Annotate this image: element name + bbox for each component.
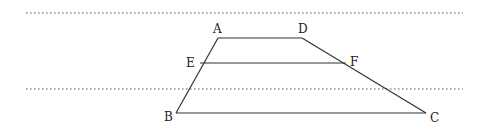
- segment-DC: [302, 38, 426, 113]
- point-label-b: B: [164, 110, 173, 124]
- point-label-c: C: [430, 111, 439, 125]
- point-label-f: F: [350, 55, 358, 69]
- point-label-e: E: [186, 56, 195, 70]
- point-label-a: A: [212, 22, 222, 36]
- trapezoid-diagram: A D E F B C: [0, 0, 488, 133]
- diagram-canvas: A D E F B C: [0, 0, 488, 133]
- point-label-d: D: [298, 22, 308, 36]
- segment-AB: [176, 38, 218, 113]
